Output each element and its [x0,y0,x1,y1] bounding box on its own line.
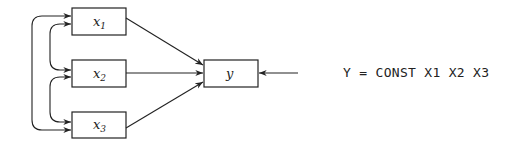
node-x3: x3 [72,112,126,138]
edge-x1-x3 [32,16,71,130]
edge-x1-x2 [50,24,71,70]
node-x1: x1 [72,8,126,35]
svg-text:y: y [225,66,234,81]
model-statement: Y = CONST X1 X2 X3 [343,65,489,80]
edge-x2-x3 [50,77,71,122]
node-x2: x2 [72,60,126,87]
edge-x3-y [126,82,203,128]
edge-x1-y [126,18,203,65]
covariance-edges [32,16,71,130]
node-y: y [204,60,258,87]
